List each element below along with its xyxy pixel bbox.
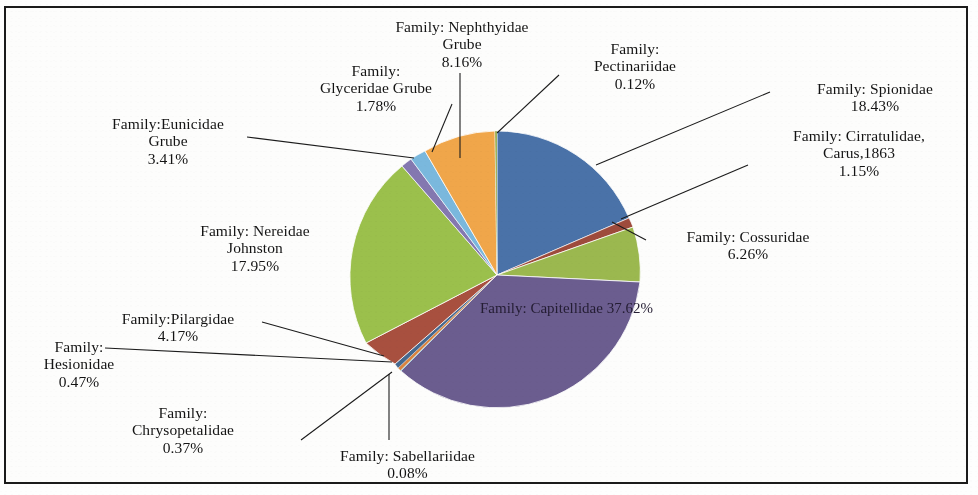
label-nephthyidae-line1: Family: Nephthyidae bbox=[378, 18, 546, 35]
label-glyceridae-line1: Family: bbox=[276, 62, 476, 79]
label-capitellidae-pct: 37.62% bbox=[607, 300, 653, 316]
label-eunicidae-pct: 3.41% bbox=[78, 150, 258, 167]
label-hesionidae-pct: 0.47% bbox=[14, 373, 144, 390]
label-cirratulidae-line2: Carus,1863 bbox=[752, 144, 966, 161]
label-nereidae: Family: Nereidae Johnston 17.95% bbox=[160, 222, 350, 274]
label-nephthyidae-line2: Grube bbox=[378, 35, 546, 52]
label-pectinariidae-line1: Family: bbox=[560, 40, 710, 57]
label-spionidae: Family: Spionidae 18.43% bbox=[780, 80, 970, 115]
label-eunicidae-line2: Grube bbox=[78, 132, 258, 149]
leader-eunicidae bbox=[247, 137, 414, 158]
label-pectinariidae: Family: Pectinariidae 0.12% bbox=[560, 40, 710, 92]
label-cirratulidae-pct: 1.15% bbox=[752, 162, 966, 179]
label-cossuridae-line1: Family: Cossuridae bbox=[648, 228, 848, 245]
label-glyceridae-line2: Glyceridae Grube bbox=[276, 79, 476, 96]
label-eunicidae-line1: Family:Eunicidae bbox=[78, 115, 258, 132]
leader-pectinariidae bbox=[497, 75, 559, 133]
label-cirratulidae: Family: Cirratulidae, Carus,1863 1.15% bbox=[752, 127, 966, 179]
leader-chrysopetalidae bbox=[301, 372, 392, 440]
label-hesionidae: Family: Hesionidae 0.47% bbox=[14, 338, 144, 390]
pie-slices bbox=[350, 131, 640, 408]
label-hesionidae-line2: Hesionidae bbox=[14, 355, 144, 372]
label-eunicidae: Family:Eunicidae Grube 3.41% bbox=[78, 115, 258, 167]
label-spionidae-line1: Family: Spionidae bbox=[780, 80, 970, 97]
label-nereidae-line2: Johnston bbox=[160, 239, 350, 256]
label-sabellariidae: Family: Sabellariidae 0.08% bbox=[300, 447, 515, 482]
leader-cirratulidae bbox=[621, 165, 748, 219]
label-capitellidae: Family: Capitellidae 37.62% bbox=[480, 300, 620, 317]
label-sabellariidae-line1: Family: Sabellariidae bbox=[300, 447, 515, 464]
label-glyceridae-pct: 1.78% bbox=[276, 97, 476, 114]
label-cossuridae-pct: 6.26% bbox=[648, 245, 848, 262]
label-chrysopetalidae-line2: Chrysopetalidae bbox=[74, 421, 292, 438]
label-sabellariidae-pct: 0.08% bbox=[300, 464, 515, 481]
label-chrysopetalidae: Family: Chrysopetalidae 0.37% bbox=[74, 404, 292, 456]
leader-hesionidae bbox=[105, 348, 392, 362]
label-glyceridae: Family: Glyceridae Grube 1.78% bbox=[276, 62, 476, 114]
label-pectinariidae-line2: Pectinariidae bbox=[560, 57, 710, 74]
label-chrysopetalidae-line1: Family: bbox=[74, 404, 292, 421]
label-capitellidae-line1: Family: bbox=[480, 300, 527, 316]
label-cossuridae: Family: Cossuridae 6.26% bbox=[648, 228, 848, 263]
label-pilargidae-line1: Family:Pilargidae bbox=[88, 310, 268, 327]
screenshot-root: Family: Nephthyidae Grube 8.16% Family: … bbox=[0, 0, 978, 495]
label-chrysopetalidae-pct: 0.37% bbox=[74, 439, 292, 456]
label-cirratulidae-line1: Family: Cirratulidae, bbox=[752, 127, 966, 144]
label-pectinariidae-pct: 0.12% bbox=[560, 75, 710, 92]
label-spionidae-pct: 18.43% bbox=[780, 97, 970, 114]
label-nereidae-pct: 17.95% bbox=[160, 257, 350, 274]
label-nereidae-line1: Family: Nereidae bbox=[160, 222, 350, 239]
leader-spionidae bbox=[596, 92, 770, 165]
label-capitellidae-line2: Capitellidae bbox=[530, 300, 602, 316]
label-hesionidae-line1: Family: bbox=[14, 338, 144, 355]
